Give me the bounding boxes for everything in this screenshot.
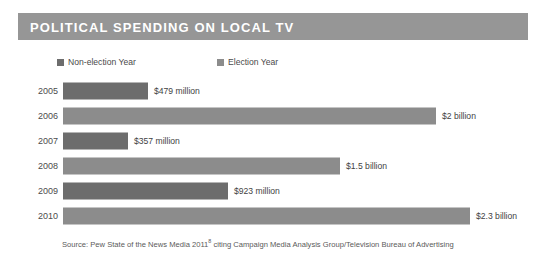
chart-legend: Non-election Year Election Year [57, 55, 477, 69]
source-text-before: Source: Pew State of the News Media 2011 [62, 240, 208, 249]
bar-row: 2009 $923 million [0, 178, 548, 203]
year-label: 2007 [0, 136, 58, 145]
year-label: 2006 [0, 111, 58, 120]
bar-value-label: $2 billion [442, 111, 476, 120]
bar-election [63, 157, 340, 174]
year-label: 2008 [0, 161, 58, 170]
bar-non-election [63, 182, 228, 199]
legend-swatch-icon-election [217, 59, 224, 66]
source-note: Source: Pew State of the News Media 2011… [62, 240, 454, 249]
bar-election [63, 207, 470, 224]
bar-non-election [63, 82, 148, 99]
bar-value-label: $479 million [154, 86, 200, 95]
year-label: 2009 [0, 186, 58, 195]
bar-track [63, 157, 340, 174]
bar-value-label: $1.5 billion [346, 161, 387, 170]
bar-value-label: $357 million [134, 136, 180, 145]
bar-value-label: $2.3 billion [476, 211, 517, 220]
plot-area: 2005 $479 million 2006 $2 billion 2007 $… [0, 78, 548, 230]
bar-track [63, 132, 128, 149]
bar-election [63, 107, 436, 124]
bar-row: 2008 $1.5 billion [0, 153, 548, 178]
bar-track [63, 107, 436, 124]
bar-row: 2005 $479 million [0, 78, 548, 103]
bar-non-election [63, 132, 128, 149]
legend-item-non-election-year: Non-election Year [57, 55, 136, 69]
page-title: POLITICAL SPENDING ON LOCAL TV [30, 20, 294, 33]
bar-row: 2007 $357 million [0, 128, 548, 153]
bar-track [63, 207, 470, 224]
year-label: 2010 [0, 211, 58, 220]
bar-row: 2006 $2 billion [0, 103, 548, 128]
year-label: 2005 [0, 86, 58, 95]
bar-row: 2010 $2.3 billion [0, 203, 548, 228]
bar-value-label: $923 million [234, 186, 280, 195]
legend-item-election-year: Election Year [217, 55, 278, 69]
chart-figure: POLITICAL SPENDING ON LOCAL TV Non-elect… [0, 0, 548, 268]
source-text-after: citing Campaign Media Analysis Group/Tel… [211, 240, 453, 249]
bar-track [63, 82, 148, 99]
title-banner: POLITICAL SPENDING ON LOCAL TV [18, 13, 528, 40]
legend-swatch-icon-non-election [57, 59, 64, 66]
legend-label-non-election: Non-election Year [68, 58, 136, 67]
bar-track [63, 182, 228, 199]
legend-label-election: Election Year [228, 58, 278, 67]
